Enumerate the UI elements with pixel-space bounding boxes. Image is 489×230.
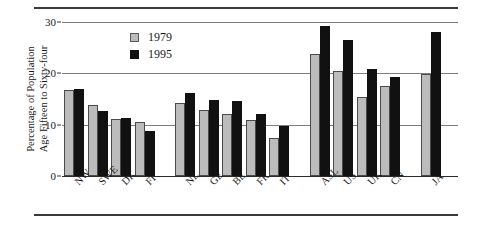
bar-cn-1979 — [380, 86, 390, 176]
y-tick-label-30: 30 — [45, 17, 56, 28]
bar-fi-1979 — [135, 122, 145, 176]
gridline-30 — [62, 22, 458, 23]
bar-swe-1979 — [88, 105, 98, 176]
y-tick-mark-10 — [57, 124, 61, 125]
bar-us-1995 — [343, 40, 353, 176]
bar-uk-1979 — [357, 97, 367, 176]
bar-asl-1995 — [320, 26, 330, 176]
bar-fr-1979 — [246, 120, 256, 176]
bar-ge-1979 — [199, 110, 209, 176]
y-axis-title: Percentage of Population Age Fifteen to … — [24, 20, 54, 178]
y-tick-label-20: 20 — [45, 68, 56, 79]
bar-fi-1995 — [145, 131, 155, 176]
bar-nl-1979 — [175, 103, 185, 176]
bar-be-1979 — [222, 114, 232, 176]
bar-asl-1979 — [310, 54, 320, 176]
bar-nl-1995 — [185, 93, 195, 176]
bar-fr-1995 — [256, 114, 266, 176]
y-tick-label-10: 10 — [45, 119, 56, 130]
y-tick-mark-0 — [57, 176, 61, 177]
bar-it-1995 — [279, 126, 289, 176]
bar-cn-1995 — [390, 77, 400, 176]
bar-ja-1979 — [421, 74, 431, 176]
bar-us-1979 — [333, 71, 343, 176]
bar-be-1995 — [232, 101, 242, 176]
bar-ja-1995 — [431, 32, 441, 176]
y-axis-title-line-2: Age Fifteen to Sixty-four — [37, 20, 50, 178]
bar-it-1979 — [269, 138, 279, 177]
bar-nw-1979 — [64, 90, 74, 176]
bar-nw-1995 — [74, 89, 84, 176]
bar-uk-1995 — [367, 69, 377, 176]
gridline-20 — [62, 73, 458, 74]
bar-ge-1995 — [209, 100, 219, 176]
y-tick-mark-30 — [57, 22, 61, 23]
chart-figure: Percentage of Population Age Fifteen to … — [0, 0, 489, 230]
top-rule — [34, 7, 458, 9]
y-axis-title-line-1: Percentage of Population — [24, 20, 37, 178]
y-tick-label-0: 0 — [51, 171, 57, 182]
y-tick-mark-20 — [57, 73, 61, 74]
bottom-rule — [34, 214, 458, 216]
plot-area: 0102030 — [62, 22, 458, 176]
bar-swe-1995 — [98, 111, 108, 176]
